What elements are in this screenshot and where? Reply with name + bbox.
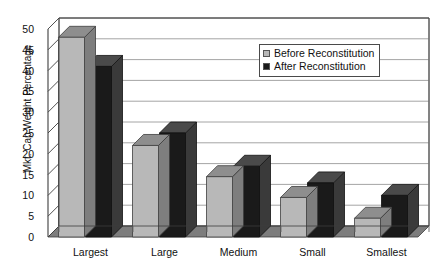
legend-label-after: After Reconstitution: [274, 61, 366, 72]
legend-swatch-before: [263, 50, 270, 57]
y-axis-tick: [48, 184, 59, 195]
bar-side: [159, 134, 170, 237]
y-axis-tick: [48, 122, 59, 133]
y-axis-tick: [48, 101, 59, 112]
bar-side: [112, 55, 123, 237]
x-tick-label: Largest: [73, 246, 108, 258]
bar-large-before: [133, 134, 170, 237]
bar-face: [133, 145, 159, 237]
y-axis-tick: [48, 164, 59, 175]
chart-legend: Before Reconstitution After Reconstituti…: [259, 44, 380, 77]
bar-face: [355, 218, 381, 237]
legend-item: Before Reconstitution: [263, 47, 374, 60]
y-axis-tick: [48, 143, 59, 154]
x-axis-tick-labels: LargestLargeMediumSmallSmallest: [0, 243, 439, 261]
bar-side: [260, 155, 271, 237]
bar-side: [186, 122, 197, 237]
bar-small-before: [281, 186, 318, 237]
y-axis-tick: [48, 205, 59, 216]
bar-face: [281, 197, 307, 237]
legend-item: After Reconstitution: [263, 60, 374, 73]
legend-swatch-after: [263, 63, 270, 70]
x-tick-label: Smallest: [366, 246, 406, 258]
x-tick-label: Small: [299, 246, 325, 258]
legend-label-before: Before Reconstitution: [274, 48, 374, 59]
bar-face: [207, 177, 233, 237]
x-tick-label: Large: [151, 246, 178, 258]
y-axis-tick: [48, 39, 59, 50]
chart-figure: Mkt. Cap Weight Percentage 0510152025303…: [0, 0, 439, 269]
bar-largest-before: [59, 26, 96, 237]
bar-side: [85, 26, 96, 237]
y-axis-tick: [48, 60, 59, 71]
y-axis-tick: [48, 80, 59, 91]
bar-face: [59, 37, 85, 237]
plot-area: [0, 0, 439, 269]
x-tick-label: Medium: [220, 246, 257, 258]
y-axis-tick: [48, 18, 59, 29]
